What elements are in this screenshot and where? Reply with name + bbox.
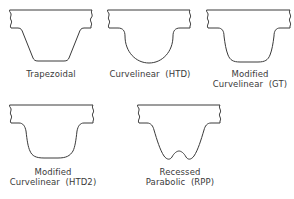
htd2-profile-shape — [10, 105, 94, 158]
rpp-label-line-2: Parabolic (RPP) — [146, 177, 214, 187]
gt-label: Modified Curvelinear (GT) — [213, 69, 287, 89]
gt-profile-shape — [207, 10, 291, 62]
htd-label: Curvelinear (HTD) — [109, 69, 190, 79]
htd-label-line-1: Curvelinear (HTD) — [109, 69, 190, 79]
trapezoidal-label: Trapezoidal — [26, 69, 75, 79]
htd-profile-shape — [108, 10, 191, 63]
htd2-label-line-1: Modified — [10, 167, 97, 177]
gt-label-line-2: Curvelinear (GT) — [213, 79, 287, 89]
htd2-label: Modified Curvelinear (HTD2) — [10, 167, 97, 187]
rpp-profile-shape — [138, 105, 221, 159]
rpp-label-line-1: Recessed — [146, 167, 214, 177]
rpp-label: Recessed Parabolic (RPP) — [146, 167, 214, 187]
htd2-label-line-2: Curvelinear (HTD2) — [10, 177, 97, 187]
trapezoidal-label-line-1: Trapezoidal — [26, 69, 75, 79]
trapezoidal-profile-shape — [10, 10, 92, 61]
gt-label-line-1: Modified — [213, 69, 287, 79]
